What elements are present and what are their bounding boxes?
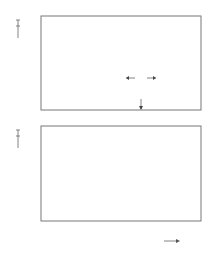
a-marker xyxy=(139,99,143,110)
top-plot-frame xyxy=(41,16,201,110)
differential-panel xyxy=(16,16,201,110)
top-y-symbol xyxy=(16,20,20,38)
arrow-left-icon xyxy=(126,76,129,80)
bottom-y-symbol xyxy=(16,130,20,148)
pulse-height-chart xyxy=(0,0,215,256)
integral-panel xyxy=(16,126,201,243)
arrow-right-icon xyxy=(176,239,180,243)
arrow-down-icon xyxy=(139,106,143,110)
x-axis-arrow xyxy=(164,239,180,243)
bottom-plot-frame xyxy=(41,126,201,221)
arrow-right-icon xyxy=(153,76,156,80)
width-annotation xyxy=(126,76,156,80)
